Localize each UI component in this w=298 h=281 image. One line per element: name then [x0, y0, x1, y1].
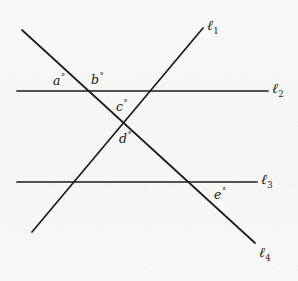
line-l3-subscript: 3 — [267, 180, 272, 190]
angle-label-e: e° — [214, 187, 226, 202]
line-l2-subscript: 2 — [278, 89, 283, 99]
angle-a-degree-symbol: ° — [61, 72, 65, 82]
diagram-canvas — [0, 0, 298, 281]
line-l4-subscript: 4 — [265, 253, 270, 263]
script-l-icon: ℓ — [207, 18, 214, 32]
angle-label-d: d° — [119, 131, 132, 146]
geometry-figure: a° b° c° d° e° ℓ1 ℓ2 ℓ3 ℓ4 — [0, 0, 298, 281]
script-l-icon: ℓ — [259, 245, 266, 259]
line-label-l2: ℓ2 — [272, 81, 284, 98]
angle-label-c: c° — [116, 99, 128, 114]
line-l4-stroke — [22, 30, 255, 243]
line-label-l3: ℓ3 — [261, 172, 273, 189]
angle-e-degree-symbol: ° — [222, 186, 226, 196]
script-l-icon: ℓ — [261, 172, 268, 186]
angle-a-letter: a — [53, 73, 60, 88]
line-label-l4: ℓ4 — [259, 245, 271, 262]
script-l-icon: ℓ — [272, 81, 279, 95]
angle-b-degree-symbol: ° — [100, 71, 104, 81]
angle-label-b: b° — [91, 72, 104, 87]
angle-c-letter: c — [116, 99, 123, 114]
angle-b-letter: b — [91, 72, 99, 87]
angle-e-letter: e — [214, 187, 221, 202]
line-label-l1: ℓ1 — [207, 18, 219, 35]
angle-d-degree-symbol: ° — [128, 130, 132, 140]
angle-c-degree-symbol: ° — [124, 98, 128, 108]
line-l1-stroke — [32, 28, 203, 232]
line-l1-subscript: 1 — [213, 26, 218, 36]
angle-d-letter: d — [119, 131, 127, 146]
line-group — [17, 28, 268, 243]
angle-label-a: a° — [53, 73, 65, 88]
